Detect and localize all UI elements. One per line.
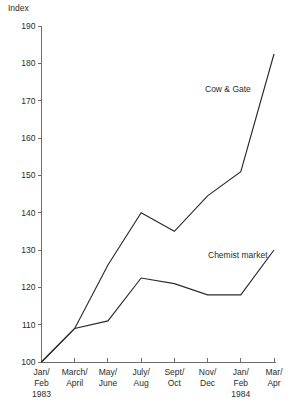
y-tick-label: 140 xyxy=(21,208,35,218)
x-tick-label: 1984 xyxy=(231,389,250,399)
y-tick-label: 170 xyxy=(21,96,35,106)
x-tick-label: Nov/ xyxy=(199,367,217,377)
line-chart: 100110120130140150160170180190 Jan/Feb19… xyxy=(0,0,301,406)
series-line-cow-and-gate xyxy=(42,54,275,362)
x-tick-label: Mar/ xyxy=(266,367,284,377)
y-tick-label: 110 xyxy=(22,320,36,330)
x-tick-label: Oct xyxy=(168,378,182,388)
x-tick-label: July/ xyxy=(132,367,150,377)
y-tick-label: 180 xyxy=(21,58,35,68)
x-tick-label: Jan/ xyxy=(233,367,250,377)
chart-container: 100110120130140150160170180190 Jan/Feb19… xyxy=(0,0,301,406)
data-series-group xyxy=(42,54,275,362)
y-axis-title: Index xyxy=(8,3,30,13)
x-tick-label: Sept/ xyxy=(164,367,184,377)
series-label-chemist-market: Chemist market xyxy=(208,250,268,260)
y-tick-label: 100 xyxy=(21,357,35,367)
x-tick-label: March/ xyxy=(62,367,89,377)
y-axis: 100110120130140150160170180190 xyxy=(21,21,41,367)
y-tick-label: 130 xyxy=(21,245,35,255)
x-tick-label: Feb xyxy=(233,378,248,388)
x-tick-label: Apr xyxy=(267,378,280,388)
x-tick-label: April xyxy=(66,378,83,388)
series-label-group: Cow & GateChemist market xyxy=(205,84,268,260)
x-axis: Jan/Feb1983March/AprilMay/JuneJuly/AugSe… xyxy=(32,358,283,399)
x-tick-label: Feb xyxy=(34,378,49,388)
x-tick-label: Aug xyxy=(134,378,149,388)
series-label-cow-and-gate: Cow & Gate xyxy=(205,84,251,94)
x-tick-label: June xyxy=(99,378,118,388)
y-tick-label: 120 xyxy=(21,282,35,292)
x-tick-label: May/ xyxy=(99,367,118,377)
x-tick-label: Dec xyxy=(200,378,216,388)
x-tick-label: Jan/ xyxy=(33,367,50,377)
y-tick-label: 150 xyxy=(21,170,35,180)
y-tick-label: 160 xyxy=(21,133,35,143)
x-tick-label: 1983 xyxy=(32,389,51,399)
y-tick-label: 190 xyxy=(21,21,35,31)
series-line-chemist-market xyxy=(42,250,275,362)
